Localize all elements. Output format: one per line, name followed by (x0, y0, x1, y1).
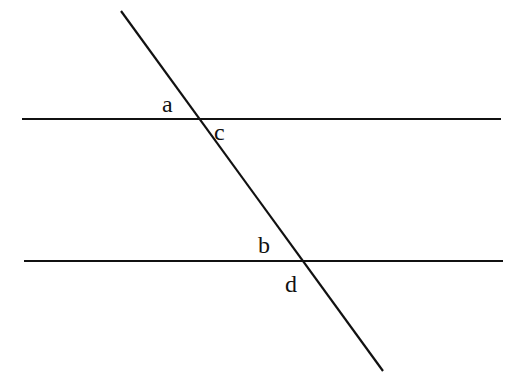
angle-label-c: c (214, 119, 225, 145)
parallel-lines-diagram: a c b d (0, 0, 513, 389)
transversal-line (121, 11, 383, 371)
angle-label-b: b (258, 232, 270, 258)
angle-label-a: a (162, 91, 173, 117)
angle-label-d: d (285, 271, 297, 297)
